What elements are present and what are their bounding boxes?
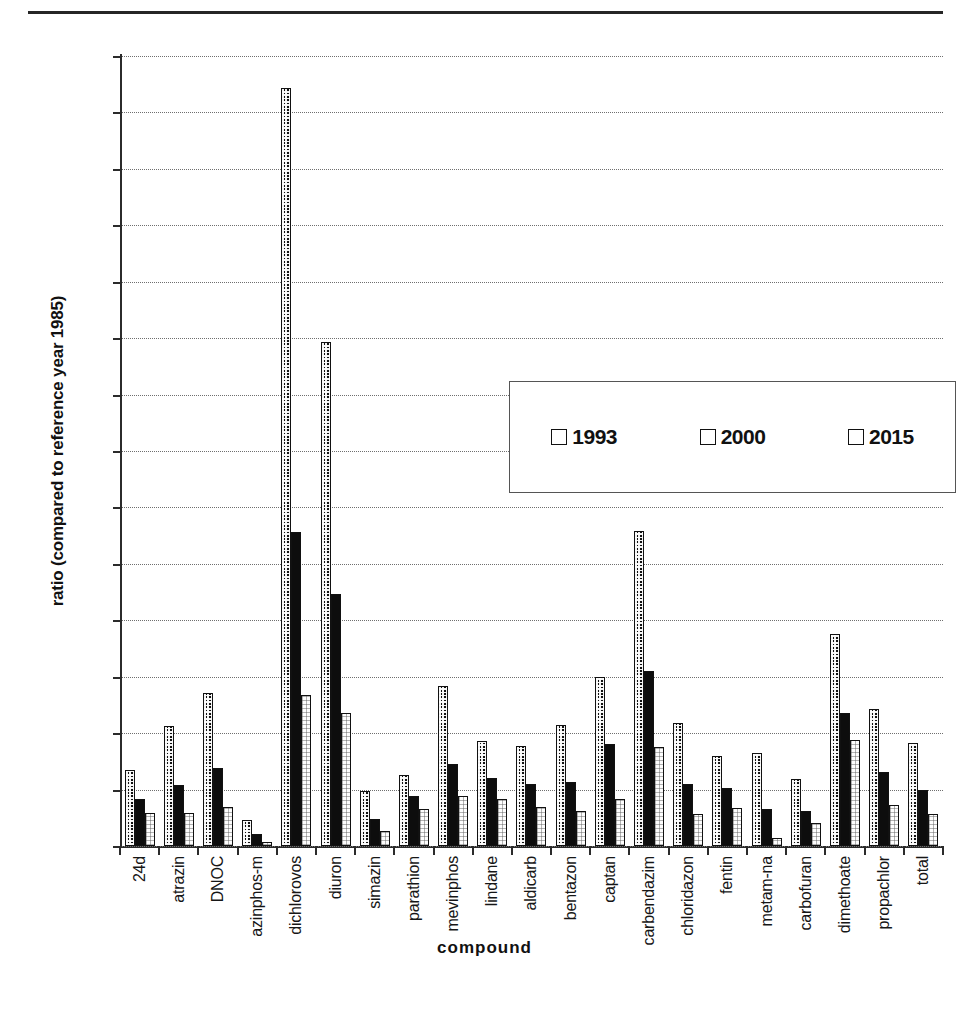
bar[interactable] <box>879 772 889 846</box>
bar[interactable] <box>291 532 301 846</box>
plot-area: ratio (compared to reference year 1985) … <box>120 56 943 846</box>
bar[interactable] <box>712 756 722 846</box>
bar-cluster <box>473 56 512 846</box>
bar[interactable] <box>536 807 546 847</box>
bar[interactable] <box>164 726 174 846</box>
bar[interactable] <box>683 784 693 846</box>
bar[interactable] <box>752 753 762 846</box>
x-tick-label: carbofuran <box>797 856 815 931</box>
x-tick-label: aldicarb <box>522 856 540 910</box>
x-tick-label: carbendazim <box>640 856 658 945</box>
legend-item[interactable]: 2000 <box>700 425 766 449</box>
bar[interactable] <box>693 814 703 846</box>
bar[interactable] <box>850 740 860 846</box>
bar-cluster <box>198 56 237 846</box>
bar[interactable] <box>889 805 899 846</box>
bar[interactable] <box>281 88 291 846</box>
legend: 1993 2000 2015 <box>509 381 956 493</box>
legend-item[interactable]: 2015 <box>848 425 914 449</box>
bar-cluster <box>434 56 473 846</box>
bar[interactable] <box>370 819 380 846</box>
bar-cluster <box>316 56 355 846</box>
x-tick-label: diuron <box>327 856 345 899</box>
header-rule <box>28 11 943 14</box>
bar[interactable] <box>654 747 664 846</box>
bar[interactable] <box>477 741 487 846</box>
x-tick-label: azinphos-m <box>248 856 266 937</box>
x-tick-label: DNOC <box>209 856 227 902</box>
white-swatch-icon <box>848 429 864 445</box>
bar[interactable] <box>360 791 370 846</box>
bar[interactable] <box>722 788 732 846</box>
bar[interactable] <box>262 842 272 847</box>
bar[interactable] <box>556 725 566 846</box>
bar-cluster <box>120 56 159 846</box>
bar-cluster <box>159 56 198 846</box>
bar[interactable] <box>516 746 526 846</box>
bar[interactable] <box>321 342 331 846</box>
checkered-swatch-icon <box>551 429 567 445</box>
bar[interactable] <box>644 671 654 846</box>
bar[interactable] <box>928 814 938 846</box>
x-tick-label: dichlorovos <box>287 856 305 935</box>
bar[interactable] <box>762 809 772 846</box>
bar[interactable] <box>526 784 536 846</box>
bar[interactable] <box>673 723 683 846</box>
x-tick-label: parathion <box>405 856 423 921</box>
bar[interactable] <box>908 743 918 846</box>
bar[interactable] <box>380 831 390 846</box>
bar[interactable] <box>409 796 419 846</box>
bar[interactable] <box>918 790 928 846</box>
bar[interactable] <box>732 808 742 846</box>
bar[interactable] <box>458 796 468 846</box>
bar[interactable] <box>135 799 145 846</box>
legend-label: 2015 <box>869 425 914 449</box>
bar[interactable] <box>419 809 429 846</box>
bar[interactable] <box>811 823 821 846</box>
bar[interactable] <box>595 677 605 846</box>
bar[interactable] <box>448 764 458 846</box>
bar[interactable] <box>576 811 586 846</box>
bar[interactable] <box>497 799 507 846</box>
x-tick-label: chloridazon <box>679 856 697 936</box>
bar[interactable] <box>252 834 262 846</box>
bar[interactable] <box>341 713 351 846</box>
bar[interactable] <box>184 813 194 846</box>
legend-item[interactable]: 1993 <box>551 425 617 449</box>
gridline <box>120 846 943 847</box>
bar[interactable] <box>791 779 801 846</box>
bar[interactable] <box>869 709 879 846</box>
bar[interactable] <box>830 634 840 846</box>
x-tick-label: metam-na <box>758 856 776 926</box>
scan-artifact-text <box>30 0 940 7</box>
bar[interactable] <box>203 693 213 846</box>
y-axis-title: ratio (compared to reference year 1985) <box>48 296 68 607</box>
bar[interactable] <box>399 775 409 846</box>
x-tick-label: atrazin <box>170 856 188 903</box>
bar[interactable] <box>840 713 850 846</box>
bar[interactable] <box>487 778 497 846</box>
bar-cluster <box>394 56 433 846</box>
bar[interactable] <box>605 744 615 846</box>
bar[interactable] <box>213 768 223 846</box>
bar[interactable] <box>174 785 184 846</box>
bar[interactable] <box>125 770 135 846</box>
bar[interactable] <box>145 813 155 846</box>
bar[interactable] <box>223 807 233 847</box>
x-tick-label: propachlor <box>875 856 893 930</box>
bar[interactable] <box>438 686 448 846</box>
bar[interactable] <box>634 531 644 846</box>
bar[interactable] <box>615 799 625 846</box>
bar[interactable] <box>242 820 252 846</box>
x-tick-label: 24d <box>131 856 149 882</box>
solid-black-swatch-icon <box>700 429 716 445</box>
bar[interactable] <box>331 594 341 846</box>
x-tick-label: mevinphos <box>444 856 462 932</box>
bar-cluster <box>277 56 316 846</box>
bar[interactable] <box>772 838 782 846</box>
bar[interactable] <box>801 811 811 846</box>
figure-bar-chart: ratio (compared to reference year 1985) … <box>0 0 969 1011</box>
bar[interactable] <box>301 695 311 846</box>
legend-label: 2000 <box>721 425 766 449</box>
bar[interactable] <box>566 782 576 846</box>
